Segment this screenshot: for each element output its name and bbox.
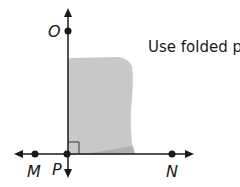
- perpendicular-lines-figure: [0, 0, 240, 187]
- point-N: [169, 151, 176, 158]
- arrow-right-icon: [185, 150, 194, 158]
- label-M: M: [27, 162, 41, 181]
- point-O: [65, 28, 72, 35]
- point-P: [64, 151, 71, 158]
- label-O: O: [48, 22, 61, 41]
- arrow-up-icon: [64, 8, 72, 17]
- label-P: P: [52, 160, 62, 179]
- folded-paper: [68, 57, 133, 155]
- arrow-left-icon: [14, 150, 23, 158]
- label-N: N: [166, 162, 178, 181]
- caption: Use folded paper: [148, 38, 240, 56]
- point-M: [32, 151, 39, 158]
- arrow-down-icon: [64, 169, 72, 178]
